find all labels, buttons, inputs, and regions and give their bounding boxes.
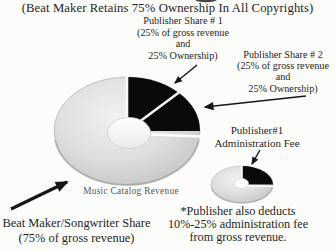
- label-line: 25% Ownership): [230, 83, 335, 94]
- label-line: and: [230, 71, 335, 82]
- arrow-admin-fee: [252, 150, 260, 164]
- label-line: Beat Maker/Songwriter Share: [1, 216, 152, 231]
- label-line: Administration Fee: [197, 137, 317, 150]
- publisher-share-1-label: Publisher Share # 1 (25% of gross revenu…: [126, 15, 240, 61]
- arrow-publisher-share-2: [205, 96, 306, 107]
- main-pie: [54, 77, 201, 186]
- label-line: Publisher#1: [197, 124, 317, 137]
- label-line: (75% of gross revenue): [1, 231, 152, 246]
- publisher-share-2-label: Publisher Share # 2 (25% of gross revenu…: [230, 49, 335, 94]
- page-title: (Beat Maker Retains 75% Ownership In All…: [0, 1, 335, 16]
- main-pie-center-hole: [108, 118, 151, 149]
- label-line: Publisher Share # 2: [230, 49, 335, 60]
- label-line: Publisher Share # 1: [126, 15, 240, 27]
- admin-fee-label: Publisher#1 Administration Fee: [197, 124, 317, 151]
- main-pie-caption: Music Catalog Revenue: [56, 186, 206, 196]
- publisher-footnote: *Publisher also deducts 10%-25% administ…: [150, 205, 326, 245]
- beat-maker-share-label: Beat Maker/Songwriter Share (75% of gros…: [1, 216, 152, 245]
- label-line: 25% Ownership): [126, 50, 240, 62]
- admin-pie: [211, 166, 274, 203]
- diagram-canvas: (Beat Maker Retains 75% Ownership In All…: [0, 0, 335, 251]
- label-line: (25% of gross revenue: [230, 60, 335, 71]
- label-line: from gross revenue.: [150, 231, 326, 244]
- admin-pie-center-hole: [235, 179, 249, 189]
- label-line: (25% of gross revenue: [126, 27, 240, 39]
- arrow-publisher-share-1: [175, 65, 197, 83]
- label-line: and: [126, 38, 240, 50]
